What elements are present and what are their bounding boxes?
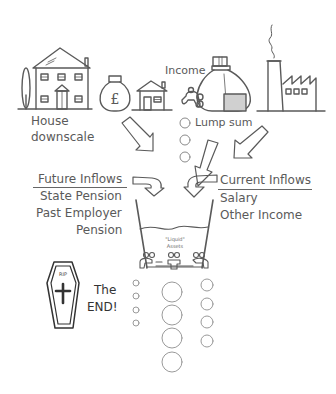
small-house-icon bbox=[132, 81, 172, 110]
future-inflow-item: Pension bbox=[76, 223, 122, 237]
coffin-rip-text: RIP bbox=[55, 271, 71, 277]
factory-icon bbox=[257, 25, 325, 111]
future-inflows-heading: Future Inflows bbox=[38, 172, 122, 186]
liquid-assets-bucket-icon bbox=[136, 200, 213, 269]
house-downscale-label-line2: downscale bbox=[31, 130, 94, 144]
arrow-from-lump-sum bbox=[195, 140, 218, 186]
the-end-line1: The bbox=[94, 283, 116, 297]
the-end-line2: END! bbox=[87, 300, 118, 314]
arrow-from-house bbox=[122, 117, 153, 151]
bucket-label-line2: Assets bbox=[160, 243, 190, 249]
lump-sum-drops bbox=[180, 118, 190, 162]
bucket-label-line1: "Liquid" bbox=[160, 236, 190, 242]
svg-text:£: £ bbox=[111, 91, 120, 107]
house-downscale-label-line1: House bbox=[31, 114, 69, 128]
future-inflow-item: Past Employer bbox=[36, 206, 122, 220]
lump-sum-label: Lump sum bbox=[195, 116, 253, 130]
income-label: Income bbox=[165, 64, 205, 78]
current-inflows-heading: Current Inflows bbox=[220, 173, 311, 187]
arrow-current-inflows bbox=[184, 175, 217, 197]
future-inflows-underline bbox=[33, 187, 127, 188]
outflow-drops bbox=[133, 279, 213, 372]
arrow-future-inflows bbox=[133, 177, 164, 196]
large-house-icon bbox=[18, 48, 92, 109]
current-inflows-underline bbox=[218, 189, 312, 190]
current-inflow-item: Salary bbox=[220, 191, 258, 205]
pound-money-bag-icon: £ bbox=[100, 76, 130, 111]
arrow-from-factory bbox=[234, 126, 268, 158]
future-inflow-item: State Pension bbox=[40, 189, 122, 203]
current-inflow-item: Other Income bbox=[220, 208, 302, 222]
